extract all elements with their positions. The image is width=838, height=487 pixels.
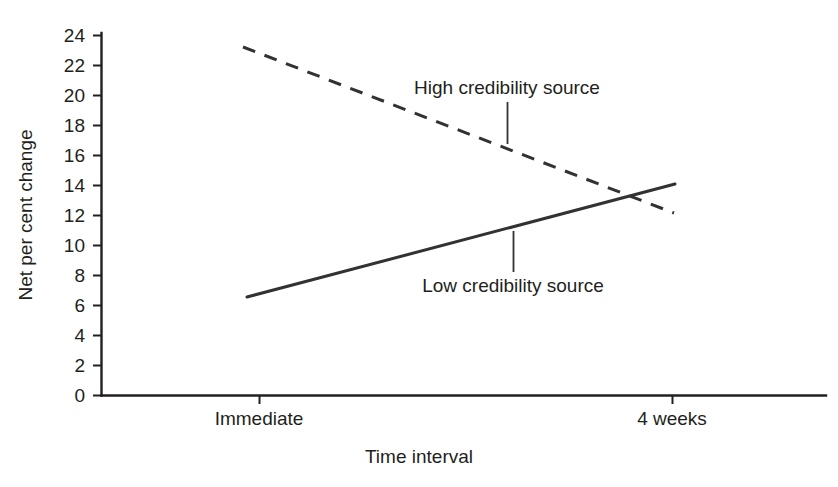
x-axis-title: Time interval [365, 446, 473, 467]
y-tick-label-12: 12 [64, 205, 85, 226]
y-tick-label-18: 18 [64, 115, 85, 136]
series-line-high-credibility [243, 47, 674, 213]
chart-container: 24 22 20 18 16 14 12 10 8 6 4 2 0 Net pe… [0, 0, 838, 487]
x-tick-marks [260, 396, 673, 405]
y-tick-label-24: 24 [64, 25, 86, 46]
y-axis-title: Net per cent change [15, 129, 36, 300]
annotation-low-credibility-source: Low credibility source [422, 275, 604, 296]
y-tick-label-16: 16 [64, 145, 85, 166]
x-tick-label-4-weeks: 4 weeks [637, 408, 707, 429]
y-tick-label-10: 10 [64, 235, 85, 256]
annotation-high-credibility-source: High credibility source [414, 77, 600, 98]
y-tick-label-14: 14 [64, 175, 86, 196]
line-chart: 24 22 20 18 16 14 12 10 8 6 4 2 0 Net pe… [0, 0, 838, 487]
y-tick-label-2: 2 [74, 355, 85, 376]
y-tick-label-8: 8 [74, 265, 85, 286]
y-tick-label-22: 22 [64, 55, 85, 76]
y-tick-label-4: 4 [74, 325, 85, 346]
y-tick-label-6: 6 [74, 295, 85, 316]
y-tick-marks [93, 36, 102, 396]
x-tick-label-immediate: Immediate [215, 408, 304, 429]
y-tick-label-20: 20 [64, 85, 85, 106]
y-tick-label-0: 0 [74, 385, 85, 406]
